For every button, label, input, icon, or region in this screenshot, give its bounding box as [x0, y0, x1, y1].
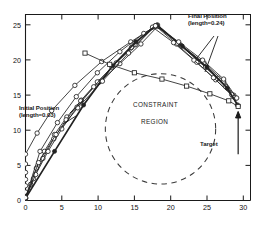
data-point — [74, 94, 78, 98]
data-point — [235, 96, 239, 100]
data-point — [236, 104, 240, 108]
data-point — [160, 77, 164, 81]
data-point — [134, 40, 138, 44]
target-label: Target — [200, 140, 218, 147]
data-point — [176, 40, 180, 44]
data-point — [132, 71, 136, 75]
constraint-label-line1: CONSTRAINT — [133, 101, 178, 108]
x-ticklabel-10: 10 — [94, 203, 102, 212]
constraint-label-line2: REGION — [141, 118, 168, 125]
initial-position-line2: (length=0.03) — [19, 111, 59, 118]
data-point — [73, 83, 77, 87]
final-position-line1: Final Position — [188, 12, 227, 19]
data-point — [227, 99, 231, 103]
data-point — [83, 51, 87, 55]
x-ticklabel-20: 20 — [167, 203, 175, 212]
data-point — [95, 71, 99, 75]
x-ticklabel-30: 30 — [239, 203, 247, 212]
y-ticklabel-0: 0 — [17, 196, 21, 205]
data-point — [54, 132, 58, 136]
y-ticklabel-20: 20 — [13, 56, 21, 65]
data-point — [200, 58, 204, 62]
initial-position-annotation: Initial Position (length=0.03) — [19, 104, 59, 118]
final-position-line2: (length=0.24) — [188, 19, 227, 26]
x-ticklabel-15: 15 — [130, 203, 138, 212]
data-point — [36, 160, 40, 164]
y-ticklabel-10: 10 — [13, 126, 21, 135]
data-point — [126, 51, 130, 55]
y-ticklabel-5: 5 — [17, 161, 21, 170]
final-position-annotation: Final Position (length=0.24) — [188, 12, 227, 26]
data-point — [100, 79, 104, 83]
data-point — [118, 50, 122, 54]
data-point — [38, 149, 42, 153]
x-ticklabel-25: 25 — [203, 203, 211, 212]
data-point — [55, 120, 59, 124]
data-point — [53, 149, 57, 153]
x-ticklabel-5: 5 — [60, 203, 64, 212]
data-point — [185, 84, 189, 88]
data-point — [208, 92, 212, 96]
data-point — [108, 62, 112, 66]
chart-figure: 0 5 10 15 20 25 30 0 5 10 15 20 25 — [0, 0, 262, 226]
x-ticklabel-0: 0 — [24, 203, 28, 212]
data-point — [153, 24, 157, 28]
data-point — [221, 77, 225, 81]
data-point — [35, 131, 39, 135]
y-ticklabel-15: 15 — [13, 91, 21, 100]
y-ticklabel-25: 25 — [13, 21, 21, 30]
initial-position-line1: Initial Position — [19, 104, 59, 111]
